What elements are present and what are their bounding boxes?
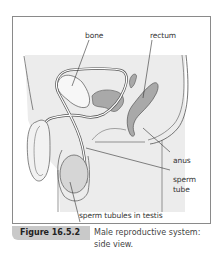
figure-number: Figure 16.5.2 xyxy=(12,226,90,240)
label-rectum: rectum xyxy=(150,31,176,40)
label-bone: bone xyxy=(85,31,103,40)
penis-outline xyxy=(27,120,50,181)
label-anus: anus xyxy=(173,156,191,165)
figure-caption: Figure 16.5.2 Male reproductive system: … xyxy=(12,226,223,266)
figure-description: Male reproductive system: side view. xyxy=(94,227,223,251)
label-sperm-tube-line2: tube xyxy=(173,185,190,194)
caption-line-2: side view. xyxy=(94,239,223,251)
testis-shape xyxy=(60,155,88,193)
label-sperm-tube-line1: sperm xyxy=(173,175,196,184)
caption-line-1: Male reproductive system: xyxy=(94,227,223,239)
label-sperm-tubules: sperm tubules in testis xyxy=(79,211,162,220)
